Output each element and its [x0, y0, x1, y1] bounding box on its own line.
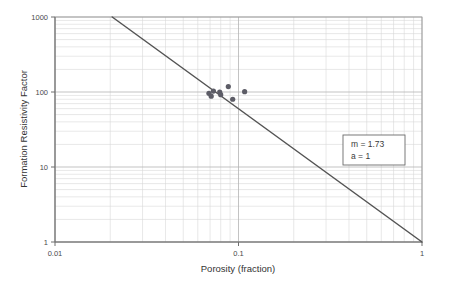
- data-point: [226, 84, 231, 89]
- data-point: [230, 97, 235, 102]
- y-tick-label: 1: [44, 238, 48, 247]
- data-point: [209, 94, 214, 99]
- y-tick-label: 1000: [31, 13, 48, 22]
- y-tick-label: 100: [35, 88, 48, 97]
- data-point: [218, 92, 223, 97]
- data-point: [211, 88, 216, 93]
- y-axis-title: Formation Resistivity Factor: [18, 70, 29, 188]
- annotation-box-group: m = 1.73 a = 1: [343, 135, 405, 165]
- annotation-a-value: a = 1: [351, 151, 370, 161]
- chart-figure: 1101001000 0.010.11 Porosity (fraction) …: [0, 0, 454, 284]
- x-tick-label: 0.1: [233, 249, 243, 258]
- y-tick-label: 10: [40, 163, 48, 172]
- x-axis-title: Porosity (fraction): [201, 263, 275, 274]
- data-point: [242, 89, 247, 94]
- chart-canvas: 1101001000 0.010.11 Porosity (fraction) …: [0, 0, 454, 284]
- x-tick-label: 0.01: [48, 249, 63, 258]
- annotation-m-value: m = 1.73: [351, 139, 385, 149]
- x-tick-label: 1: [420, 249, 424, 258]
